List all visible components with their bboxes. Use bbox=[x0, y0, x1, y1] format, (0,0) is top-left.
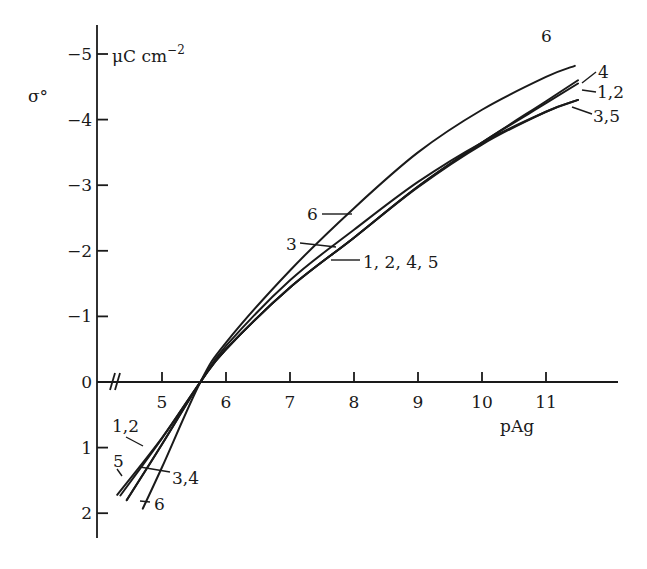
x-tick-label: 6 bbox=[221, 392, 232, 412]
curve-label: 1,2 bbox=[112, 416, 139, 436]
leader-top-12 bbox=[582, 90, 596, 92]
y-tick-label: −5 bbox=[67, 44, 92, 64]
curve-4 bbox=[127, 80, 578, 500]
curve-6 bbox=[143, 66, 575, 509]
x-tick-label: 7 bbox=[285, 392, 296, 412]
y-tick-label: 1 bbox=[81, 438, 92, 458]
curve-label: 3 bbox=[286, 234, 297, 254]
leader-lines bbox=[117, 72, 596, 502]
curve-label: 1, 2, 4, 5 bbox=[363, 252, 439, 272]
curve-label: 6 bbox=[307, 204, 318, 224]
leader-top-4 bbox=[582, 72, 596, 83]
y-ticks: −5−4−3−2−1012 bbox=[67, 44, 108, 523]
x-tick-label: 5 bbox=[157, 392, 168, 412]
leader-bl-6 bbox=[140, 501, 150, 502]
curve-labels: 641,23,5631, 2, 4, 51,253,46 bbox=[112, 26, 624, 514]
curve-label: 3,5 bbox=[593, 106, 620, 126]
curve-label: 6 bbox=[541, 26, 552, 46]
curves bbox=[117, 66, 578, 509]
x-tick-label: 11 bbox=[535, 392, 557, 412]
leader-top-35 bbox=[572, 107, 592, 114]
y-tick-label: −4 bbox=[67, 110, 92, 130]
x-tick-label: 10 bbox=[471, 392, 493, 412]
y-tick-label: −2 bbox=[67, 241, 92, 261]
curve-label: 1,2 bbox=[597, 82, 624, 102]
y-tick-label: −1 bbox=[67, 306, 92, 326]
x-tick-label: 9 bbox=[413, 392, 424, 412]
y-axis-label: σ° bbox=[28, 86, 48, 106]
curve-3 bbox=[127, 100, 578, 500]
curve-label: 6 bbox=[154, 494, 165, 514]
y-tick-label: −3 bbox=[67, 175, 92, 195]
leader-bl-12 bbox=[126, 437, 143, 446]
x-tick-label: 8 bbox=[349, 392, 360, 412]
chart-canvas: 567891011 −5−4−3−2−1012 σ° μC cm−2 pAg 6… bbox=[0, 0, 647, 569]
y-unit-text: μC cm bbox=[112, 46, 167, 66]
y-tick-label: 2 bbox=[81, 503, 92, 523]
curve-5 bbox=[120, 100, 578, 496]
y-axis-unit: μC cm−2 bbox=[112, 43, 185, 66]
x-ticks: 567891011 bbox=[157, 372, 557, 412]
curve-label: 3,4 bbox=[172, 468, 199, 488]
axes bbox=[97, 25, 618, 538]
curve-label: 4 bbox=[598, 62, 609, 82]
curve-label: 5 bbox=[113, 451, 124, 471]
x-axis-label: pAg bbox=[500, 416, 534, 436]
y-tick-label: 0 bbox=[81, 372, 92, 392]
y-unit-exponent: −2 bbox=[167, 43, 185, 57]
